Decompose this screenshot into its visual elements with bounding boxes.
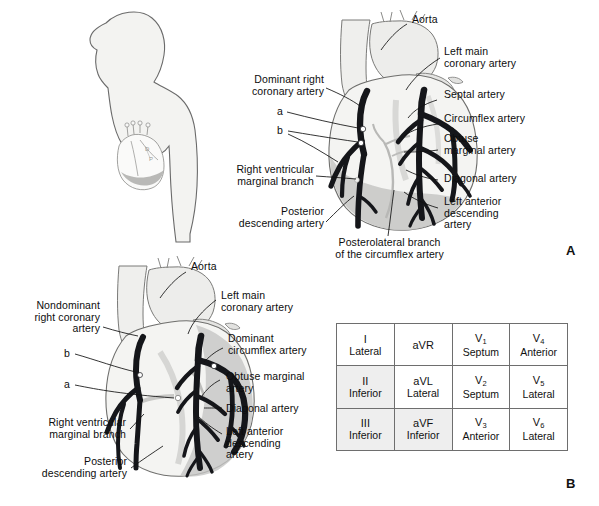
- label-aorta-b: Aorta: [191, 261, 217, 273]
- ecg-cell-v2: V2Septum: [452, 366, 510, 408]
- ecg-lead-name: V5: [510, 374, 567, 388]
- left-main-trunk: [421, 90, 424, 114]
- label-lad-a: Left anterior descending artery: [444, 196, 501, 231]
- label-diagonal-a: Diagonal artery: [444, 173, 517, 185]
- ecg-lead-region: Lateral: [510, 388, 567, 400]
- marker-a-dot-b: [175, 395, 180, 400]
- ecg-lead-name: V3: [453, 416, 510, 430]
- body-silhouette: D P: [90, 12, 197, 242]
- ecg-lead-subscript: 3: [482, 421, 486, 430]
- label-nondominant-rca-b: Nondominant right coronary artery: [14, 300, 100, 335]
- ecg-lead-subscript: 6: [540, 421, 544, 430]
- ecg-lead-region: Inferior: [337, 387, 394, 399]
- ecg-cell-v4: V4Anterior: [510, 324, 568, 366]
- marker-a-dot: [360, 126, 365, 131]
- label-pda-a: Posterior descending artery: [222, 206, 324, 229]
- ecg-lead-region: Anterior: [453, 430, 510, 442]
- ecg-lead-region: Inferior: [395, 429, 452, 441]
- ecg-lead-name: aVL: [395, 375, 452, 387]
- ecg-lead-region: Anterior: [510, 346, 567, 358]
- left-main-trunk-b: [198, 336, 201, 360]
- label-rv-marginal-b: Right ventricular marginal branch: [14, 417, 126, 440]
- label-aorta-a: Aorta: [412, 14, 438, 26]
- ecg-lead-region: Septum: [453, 388, 510, 400]
- ecg-cell-v5: V5Lateral: [510, 366, 568, 408]
- ecg-lead-region: Lateral: [510, 430, 567, 442]
- label-lad-b: Left anterior descending artery: [226, 426, 283, 461]
- svg-text:D: D: [145, 146, 150, 152]
- ecg-table-row: IIInferioraVLLateralV2SeptumV5Lateral: [337, 366, 568, 408]
- ecg-cell-ii: IIInferior: [337, 366, 395, 408]
- panel-letter-b: B: [566, 476, 575, 491]
- label-rv-marginal-a: Right ventricular marginal branch: [222, 164, 314, 187]
- label-pda-b: Posterior descending artery: [14, 456, 127, 479]
- ecg-cell-v1: V1Septum: [452, 324, 510, 366]
- label-dominant-circumflex-b: Dominant circumflex artery: [228, 333, 307, 356]
- ecg-lead-region: Septum: [453, 346, 510, 358]
- ecg-lead-name: aVR: [395, 339, 452, 351]
- ecg-lead-subscript: 4: [540, 337, 544, 346]
- ecg-lead-subscript: 2: [482, 379, 486, 388]
- marker-b-dot: [358, 140, 363, 145]
- label-circumflex-a: Circumflex artery: [444, 113, 525, 125]
- ecg-lead-region: Lateral: [395, 387, 452, 399]
- ecg-cell-avr: aVR: [394, 324, 452, 366]
- ecg-cell-avf: aVFInferior: [394, 408, 452, 450]
- ecg-lead-localization-table: ILateralaVRV1SeptumV4AnteriorIIInferiora…: [336, 323, 568, 451]
- ecg-lead-name: V1: [453, 332, 510, 346]
- ecg-lead-region: Inferior: [337, 429, 394, 441]
- ecg-lead-name: III: [337, 417, 394, 429]
- ecg-table-row: IIIInferioraVFInferiorV3AnteriorV6Latera…: [337, 408, 568, 450]
- label-obtuse-marginal-b: Obtuse marginal artery: [226, 371, 305, 394]
- ecg-lead-subscript: 1: [482, 337, 486, 346]
- ecg-lead-name: aVF: [395, 417, 452, 429]
- ecg-lead-name: V6: [510, 416, 567, 430]
- ecg-lead-name: II: [337, 375, 394, 387]
- ecg-table-row: ILateralaVRV1SeptumV4Anterior: [337, 324, 568, 366]
- ecg-lead-name: I: [337, 333, 394, 345]
- svg-text:P: P: [149, 156, 153, 162]
- label-septal-a: Septal artery: [444, 89, 505, 101]
- ecg-cell-avl: aVLLateral: [394, 366, 452, 408]
- ecg-cell-v6: V6Lateral: [510, 408, 568, 450]
- label-dominant-rca-a: Dominant right coronary artery: [238, 74, 324, 97]
- label-marker-a-a: a: [277, 106, 283, 118]
- label-diagonal-b: Diagonal artery: [226, 403, 299, 415]
- ecg-cell-v3: V3Anterior: [452, 408, 510, 450]
- label-obtuse-marginal-a: Obtuse marginal artery: [444, 133, 516, 156]
- label-left-main-a: Left main coronary artery: [444, 46, 516, 69]
- ecg-lead-name: V4: [510, 332, 567, 346]
- marker-b-dot-b: [138, 373, 143, 378]
- ecg-cell-iii: IIIInferior: [337, 408, 395, 450]
- label-marker-a-b: a: [64, 379, 70, 391]
- ecg-table-body: ILateralaVRV1SeptumV4AnteriorIIInferiora…: [337, 324, 568, 451]
- ecg-lead-name: V2: [453, 374, 510, 388]
- label-marker-b-a: b: [277, 125, 283, 137]
- label-marker-b-b: b: [64, 348, 70, 360]
- panel-letter-a: A: [566, 243, 575, 258]
- label-left-main-b: Left main coronary artery: [221, 290, 293, 313]
- ecg-cell-i: ILateral: [337, 324, 395, 366]
- ecg-lead-region: Lateral: [337, 345, 394, 357]
- label-posterolateral-a: Posterolateral branch of the circumflex …: [318, 237, 461, 260]
- ecg-lead-subscript: 5: [540, 379, 544, 388]
